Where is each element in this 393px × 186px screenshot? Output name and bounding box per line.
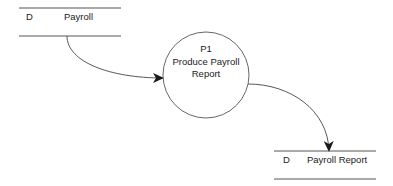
store-id-label: D [26,11,33,22]
store-id-label: D [283,154,290,165]
process-p1[interactable]: P1 Produce Payroll Report [163,32,249,118]
data-store-payroll-report[interactable]: D Payroll Report [274,151,376,179]
data-store-payroll[interactable]: D Payroll [19,8,121,36]
process-name-line1: Produce Payroll [172,56,239,67]
data-flow-diagram: D Payroll P1 Produce Payroll Report D Pa… [0,0,393,186]
flow-arrow-p1-to-payroll-report[interactable] [248,84,329,151]
flow-arrow-payroll-to-p1[interactable] [67,36,163,78]
store-name: Payroll [64,11,93,22]
process-name-line2: Report [192,68,221,79]
process-id: P1 [200,43,212,54]
store-name: Payroll Report [307,154,368,165]
